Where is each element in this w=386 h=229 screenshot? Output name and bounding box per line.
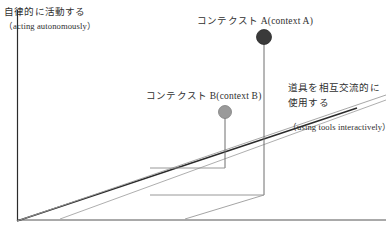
context-b-marker <box>219 106 232 119</box>
label-context-a: コンテクスト A(context A) <box>197 14 313 29</box>
label-acting-autonomously-jp: 自律的に活動する <box>4 4 96 19</box>
label-acting-autonomously-en: （acting autonomously） <box>4 19 96 34</box>
label-acting-autonomously: 自律的に活動する （acting autonomously） <box>4 4 96 34</box>
label-context-b: コンテクスト B(context B) <box>146 89 262 104</box>
label-using-tools-jp-line2: 使用する <box>288 95 386 110</box>
context-a-base-diagonal <box>185 195 264 219</box>
label-using-tools-interactively: 道具を相互交流的に 使用する （using tools interactivel… <box>288 80 386 135</box>
label-using-tools-en: （using tools interactively） <box>288 120 386 135</box>
context-a-marker <box>257 30 272 45</box>
label-using-tools-jp-line1: 道具を相互交流的に <box>288 80 386 95</box>
diagram-canvas: 自律的に活動する （acting autonomously） コンテクスト A(… <box>0 0 386 229</box>
